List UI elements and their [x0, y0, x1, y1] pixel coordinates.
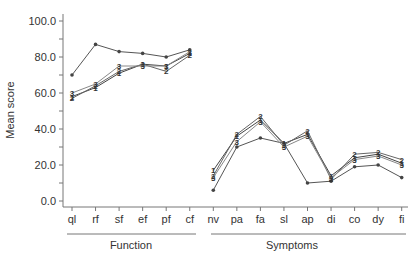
group-label-function: Function — [110, 239, 152, 251]
dot-marker — [212, 188, 216, 192]
x-tick-label-ap: ap — [301, 213, 313, 225]
y-tick-label: 0.0 — [41, 195, 56, 207]
y-axis-label: Mean score — [4, 81, 16, 138]
y-tick-label: 100.0 — [28, 15, 56, 27]
series-marker-3: 3 — [258, 118, 263, 127]
series-line-3 — [72, 52, 190, 93]
series-marker-3: 3 — [117, 62, 122, 71]
dot-marker — [141, 52, 145, 56]
dot-marker — [117, 50, 121, 54]
x-tick-label-rf: rf — [92, 213, 100, 225]
series-marker-3: 3 — [329, 174, 334, 183]
dot-marker — [94, 43, 98, 47]
x-tick-label-pf: pf — [162, 213, 172, 225]
series-marker-3: 3 — [164, 62, 169, 71]
y-tick-label: 20.0 — [35, 159, 56, 171]
series-line-dot — [72, 44, 190, 75]
series-marker-3: 3 — [140, 62, 145, 71]
dot-marker — [70, 73, 74, 77]
x-tick-label-ef: ef — [138, 213, 148, 225]
y-tick-label: 60.0 — [35, 87, 56, 99]
axes: 0.020.040.060.080.0100.0qlrfsfefpfcfnvpa… — [28, 14, 408, 251]
series-line-2 — [72, 55, 190, 98]
series-marker-3: 3 — [188, 48, 193, 57]
series-lines: 1111111111111112222222222222223333333333… — [70, 43, 405, 192]
series-line-1 — [72, 53, 190, 96]
series-marker-3: 3 — [70, 89, 75, 98]
dot-marker — [400, 176, 404, 180]
x-tick-label-nv: nv — [207, 213, 219, 225]
x-tick-label-sl: sl — [280, 213, 288, 225]
x-tick-label-fa: fa — [256, 213, 266, 225]
dot-marker — [376, 163, 380, 167]
series-marker-3: 3 — [235, 138, 240, 147]
series-marker-3: 3 — [399, 161, 404, 170]
group-label-symptoms: Symptoms — [266, 239, 318, 251]
x-tick-label-cf: cf — [185, 213, 195, 225]
x-tick-label-di: di — [327, 213, 336, 225]
series-marker-3: 3 — [93, 80, 98, 89]
x-tick-label-dy: dy — [372, 213, 384, 225]
x-tick-label-sf: sf — [115, 213, 125, 225]
series-marker-3: 3 — [282, 143, 287, 152]
dot-marker — [259, 136, 263, 140]
series-marker-3: 3 — [352, 156, 357, 165]
series-marker-3: 3 — [376, 152, 381, 161]
dot-marker — [306, 181, 310, 185]
y-tick-label: 40.0 — [35, 123, 56, 135]
x-tick-label-co: co — [349, 213, 361, 225]
x-tick-label-ql: ql — [68, 213, 77, 225]
y-tick-label: 80.0 — [35, 51, 56, 63]
x-tick-label-pa: pa — [231, 213, 244, 225]
mean-score-line-chart: 0.020.040.060.080.0100.0qlrfsfefpfcfnvpa… — [0, 0, 419, 261]
dot-marker — [353, 165, 357, 169]
x-tick-label-fi: fi — [399, 213, 405, 225]
dot-marker — [164, 55, 168, 59]
series-marker-3: 3 — [305, 132, 310, 141]
series-marker-3: 3 — [211, 174, 216, 183]
